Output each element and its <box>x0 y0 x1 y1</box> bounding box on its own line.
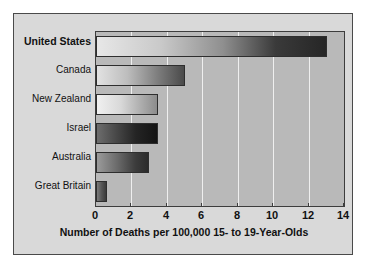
gridline-6 <box>202 32 203 206</box>
tick-mark-14 <box>343 203 344 207</box>
x-tick-label-4: 4 <box>163 209 169 221</box>
tick-mark-4 <box>166 203 167 207</box>
tick-mark-12 <box>308 203 309 207</box>
figure-frame: United States Canada New Zealand Israel … <box>13 13 353 255</box>
category-label-new-zealand: New Zealand <box>32 89 91 109</box>
bar-new-zealand <box>96 94 158 115</box>
category-label-great-britain: Great Britain <box>35 176 91 196</box>
bar-canada <box>96 65 185 86</box>
x-axis-title: Number of Deaths per 100,000 15- to 19-Y… <box>14 226 354 238</box>
tick-mark-6 <box>201 203 202 207</box>
gridline-4 <box>167 32 168 206</box>
category-label-israel: Israel <box>67 118 91 138</box>
x-axis: 0 2 4 6 8 10 12 14 <box>95 207 345 225</box>
gridline-2 <box>131 32 132 206</box>
x-tick-label-12: 12 <box>302 209 314 221</box>
bar-australia <box>96 152 149 173</box>
tick-mark-2 <box>130 203 131 207</box>
x-tick-label-6: 6 <box>198 209 204 221</box>
category-axis-labels: United States Canada New Zealand Israel … <box>14 31 95 207</box>
bar-united-states <box>96 36 327 57</box>
tick-mark-0 <box>95 203 96 207</box>
x-tick-label-8: 8 <box>234 209 240 221</box>
chart-figure: United States Canada New Zealand Israel … <box>0 0 366 268</box>
category-label-united-states: United States <box>24 31 91 51</box>
tick-mark-8 <box>237 203 238 207</box>
tick-mark-10 <box>272 203 273 207</box>
gridline-12 <box>309 32 310 206</box>
bar-israel <box>96 123 158 144</box>
gridline-10 <box>273 32 274 206</box>
x-tick-label-10: 10 <box>266 209 278 221</box>
bar-great-britain <box>96 181 107 202</box>
x-tick-label-2: 2 <box>127 209 133 221</box>
gridline-8 <box>238 32 239 206</box>
category-label-canada: Canada <box>56 60 91 80</box>
x-tick-label-14: 14 <box>337 209 349 221</box>
plot-area <box>95 31 345 207</box>
category-label-australia: Australia <box>52 147 91 167</box>
x-tick-label-0: 0 <box>92 209 98 221</box>
